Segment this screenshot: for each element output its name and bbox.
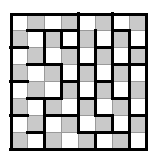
region-boundary-vertical (128, 131, 131, 151)
grid-cell[interactable] (112, 13, 129, 30)
grid-cell[interactable] (95, 115, 112, 132)
grid-cell[interactable] (112, 132, 129, 149)
grid-cell[interactable] (95, 132, 112, 149)
grid-cell[interactable] (95, 98, 112, 115)
grid-surface (10, 13, 148, 151)
grid-cell[interactable] (61, 13, 78, 30)
grid-cell[interactable] (44, 98, 61, 115)
grid-cell[interactable] (10, 64, 27, 81)
region-boundary-vertical (111, 80, 114, 100)
grid-cell[interactable] (44, 13, 61, 30)
grid-cell[interactable] (44, 115, 61, 132)
grid-cell[interactable] (95, 13, 112, 30)
grid-cell[interactable] (61, 30, 78, 47)
region-boundary-vertical (43, 46, 46, 66)
grid-cell[interactable] (112, 64, 129, 81)
region-boundary-horizontal (128, 114, 148, 117)
grid-cell[interactable] (78, 47, 95, 64)
grid-cell[interactable] (129, 98, 146, 115)
grid-cell[interactable] (10, 81, 27, 98)
grid-cell[interactable] (10, 115, 27, 132)
grid-cell[interactable] (44, 81, 61, 98)
region-boundary-vertical (94, 131, 97, 151)
grid-cell[interactable] (44, 132, 61, 149)
grid-cell[interactable] (44, 64, 61, 81)
grid-cell[interactable] (112, 30, 129, 47)
grid-cell[interactable] (44, 47, 61, 64)
puzzle-figure-canvas (0, 0, 158, 160)
grid-cell[interactable] (112, 98, 129, 115)
grid-cell[interactable] (78, 30, 95, 47)
grid-cell[interactable] (27, 98, 44, 115)
grid-cell[interactable] (112, 47, 129, 64)
grid-cell[interactable] (61, 132, 78, 149)
grid-cell[interactable] (95, 64, 112, 81)
grid-cell[interactable] (27, 115, 44, 132)
grid-cell[interactable] (27, 47, 44, 64)
grid-cell[interactable] (129, 81, 146, 98)
region-boundary-vertical (77, 114, 80, 134)
grid-cell[interactable] (61, 98, 78, 115)
region-boundary-horizontal (128, 46, 148, 49)
grid-cell[interactable] (10, 47, 27, 64)
grid-cell[interactable] (95, 30, 112, 47)
grid-cell[interactable] (129, 64, 146, 81)
grid-cell[interactable] (78, 98, 95, 115)
region-boundary-horizontal (128, 63, 148, 66)
grid-cell[interactable] (44, 30, 61, 47)
region-boundary-horizontal (9, 80, 29, 83)
grid-cell[interactable] (27, 64, 44, 81)
grid-cell[interactable] (78, 132, 95, 149)
grid-cell[interactable] (78, 81, 95, 98)
grid-cell[interactable] (61, 115, 78, 132)
puzzle-grid[interactable] (10, 13, 148, 151)
grid-cell[interactable] (112, 115, 129, 132)
region-boundary-horizontal (9, 46, 29, 49)
grid-cell[interactable] (78, 13, 95, 30)
grid-cell[interactable] (112, 81, 129, 98)
grid-cell[interactable] (27, 81, 44, 98)
grid-cell[interactable] (129, 30, 146, 47)
region-boundary-vertical (94, 97, 97, 117)
grid-cell[interactable] (27, 132, 44, 149)
region-boundary-vertical (60, 29, 63, 49)
grid-cell[interactable] (129, 47, 146, 64)
grid-cell[interactable] (129, 115, 146, 132)
grid-cell[interactable] (10, 13, 27, 30)
grid-cell[interactable] (95, 47, 112, 64)
grid-cell[interactable] (27, 13, 44, 30)
grid-cell[interactable] (129, 132, 146, 149)
region-boundary-horizontal (9, 114, 29, 117)
region-boundary-horizontal (128, 148, 148, 151)
grid-cell[interactable] (10, 98, 27, 115)
grid-cell[interactable] (95, 81, 112, 98)
grid-cell[interactable] (129, 13, 146, 30)
grid-cell[interactable] (78, 64, 95, 81)
grid-cell[interactable] (61, 81, 78, 98)
grid-cell[interactable] (78, 115, 95, 132)
region-boundary-vertical (43, 131, 46, 151)
grid-cell[interactable] (10, 132, 27, 149)
region-boundary-vertical (111, 114, 114, 134)
region-boundary-vertical (60, 80, 63, 100)
grid-cell[interactable] (10, 30, 27, 47)
grid-cell[interactable] (61, 64, 78, 81)
grid-cell[interactable] (27, 30, 44, 47)
grid-cell[interactable] (61, 47, 78, 64)
